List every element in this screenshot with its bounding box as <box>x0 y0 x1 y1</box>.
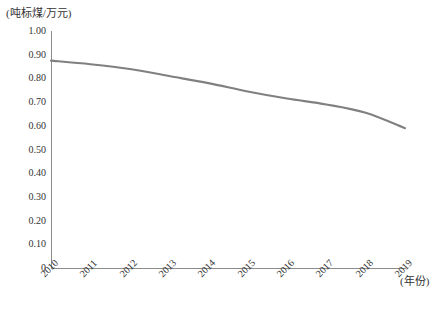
series-line-path <box>51 61 405 129</box>
series-plot <box>0 0 436 311</box>
x-axis-unit-label: (年份) <box>400 275 429 287</box>
line-chart: (吨标煤/万元) 1.000.900.800.700.600.500.400.3… <box>0 0 436 311</box>
